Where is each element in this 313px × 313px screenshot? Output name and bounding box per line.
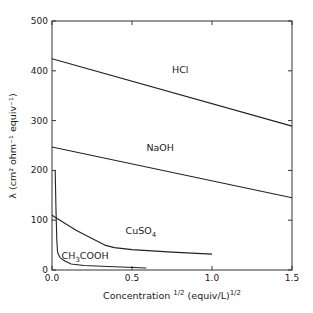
series-line-naoh [52,147,292,198]
series-label-naoh: NaOH [146,142,174,153]
x-axis-label: Concentration 1/2 (equiv/L)1/2 [103,289,241,301]
x-tick-label: 1.0 [205,273,220,283]
y-tick-label: 400 [31,66,48,76]
y-tick-label: 500 [31,16,48,26]
y-axis-label: λ (cm² ohm⁻¹ equiv⁻¹) [7,93,18,198]
x-tick-label: 1.5 [285,273,299,283]
series-labels: HClNaOHCuSO4CH3COOH [62,64,189,264]
chart: 0.00.51.01.50100200300400500 HClNaOHCuSO… [0,0,313,313]
y-tick-label: 300 [31,116,48,126]
series-label-hcl: HCl [172,64,188,75]
y-tick-label: 0 [42,265,48,275]
y-tick-label: 100 [31,215,48,225]
series-label-cuso4: CuSO4 [126,225,157,239]
y-tick-label: 200 [31,165,48,175]
series-lines [52,59,292,268]
x-tick-label: 0.5 [125,273,139,283]
series-label-ch3cooh: CH3COOH [62,250,109,264]
